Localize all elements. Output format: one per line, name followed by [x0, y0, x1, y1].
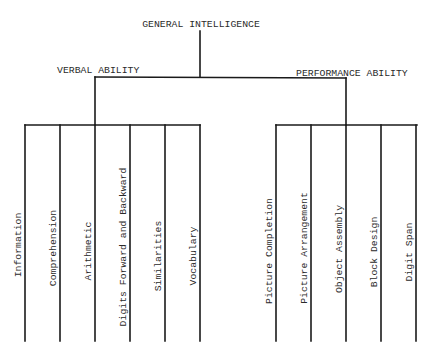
leaf-label: Picture Completion	[264, 198, 275, 304]
leaf-label: Comprehension	[48, 210, 59, 287]
leaf-label: Similarities	[153, 221, 164, 292]
leaf-label: Digit Span	[404, 222, 415, 281]
root-label: GENERAL INTELLIGENCE	[142, 19, 260, 30]
verbal-children: InformationComprehensionArithmeticDigits…	[13, 125, 200, 341]
leaf-label: Vocabulary	[188, 226, 199, 285]
intelligence-hierarchy-diagram: GENERAL INTELLIGENCE VERBAL ABILITY Info…	[0, 0, 438, 359]
leaf-label: Object Assembly	[334, 205, 345, 293]
performance-ability-label: PERFORMANCE ABILITY	[296, 68, 408, 79]
verbal-ability-label: VERBAL ABILITY	[57, 65, 139, 76]
performance-children: Picture CompletionPicture ArrangementObj…	[264, 125, 416, 341]
leaf-label: Digits Forward and Backward	[118, 168, 129, 327]
leaf-label: Information	[13, 213, 24, 278]
leaf-label: Block Design	[369, 217, 380, 288]
leaf-label: Arithmetic	[83, 221, 94, 280]
leaf-label: Picture Arrangement	[299, 192, 310, 304]
